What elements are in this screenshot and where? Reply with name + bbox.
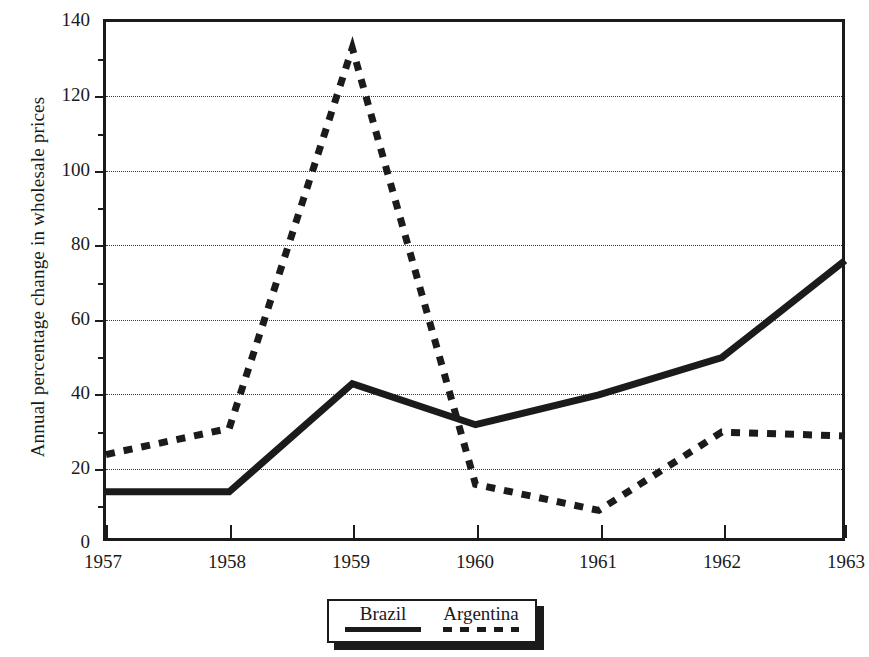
x-tick-label-1957: 1957 [48,551,158,573]
series-line-argentina [106,48,845,510]
legend-label-argentina: Argentina [433,603,529,624]
y-minor-tick-90 [98,208,106,210]
x-tick-label-1962: 1962 [667,551,777,573]
y-minor-tick-50 [98,357,106,359]
x-tick-label-1960: 1960 [420,551,530,573]
x-tick-label-1961: 1961 [543,551,653,573]
legend-box: Brazil Argentina [327,599,537,643]
y-major-tick-120 [95,96,106,98]
y-minor-tick-130 [98,59,106,61]
y-minor-tick-70 [98,283,106,285]
y-major-tick-20 [95,469,106,471]
y-major-tick-80 [95,245,106,247]
y-major-tick-40 [95,394,106,396]
legend-entry-argentina: Argentina [433,603,529,632]
y-minor-tick-10 [98,506,106,508]
legend-swatch-argentina [443,627,519,632]
y-major-tick-60 [95,320,106,322]
y-minor-tick-110 [98,134,106,136]
x-tick-label-1963: 1963 [791,551,869,573]
x-tick-label-1958: 1958 [172,551,282,573]
x-tick-label-1959: 1959 [296,551,406,573]
series-line-brazil [106,261,845,492]
series-layer [106,22,848,544]
legend-label-brazil: Brazil [335,603,431,624]
legend-swatch-brazil [345,627,421,632]
plot-area [103,19,845,541]
y-major-tick-100 [95,171,106,173]
legend-entry-brazil: Brazil [335,603,431,632]
y-minor-tick-30 [98,432,106,434]
